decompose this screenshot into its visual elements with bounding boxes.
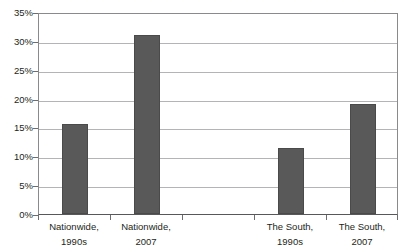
y-axis: 0%5%10%15%20%25%30%35% (0, 13, 33, 215)
gridline (39, 158, 397, 159)
y-tick-label: 0% (0, 210, 33, 220)
gridline (39, 101, 397, 102)
plot-area (38, 13, 398, 215)
x-tick-label-line2: 2007 (326, 234, 398, 249)
bar (134, 35, 160, 214)
x-tick-label-line1: The South, (267, 221, 313, 232)
y-tick-label: 20% (0, 95, 33, 105)
y-tick-label: 5% (0, 181, 33, 191)
x-tick-label-line1: The South, (339, 221, 385, 232)
gridline (39, 187, 397, 188)
x-tick-label: The South,2007 (326, 219, 398, 249)
x-tick-label: Nationwide,1990s (38, 219, 110, 249)
x-tick-label-line2: 1990s (38, 234, 110, 249)
x-tick-label-line1: Nationwide, (121, 221, 171, 232)
bar (62, 124, 88, 214)
gridline (39, 129, 397, 130)
x-tick-label: The South,1990s (254, 219, 326, 249)
chart-title (0, 0, 408, 2)
gridline (39, 72, 397, 73)
y-tick-label: 35% (0, 8, 33, 18)
y-tick-label: 30% (0, 37, 33, 47)
y-tick-label: 25% (0, 66, 33, 76)
x-axis: Nationwide,1990sNationwide,2007The South… (38, 219, 398, 252)
y-tick-label: 10% (0, 152, 33, 162)
x-tick-label: Nationwide,2007 (110, 219, 182, 249)
x-tick-label-line2: 1990s (254, 234, 326, 249)
bar (350, 104, 376, 214)
bar (278, 148, 304, 214)
x-tick-label-line2: 2007 (110, 234, 182, 249)
bar-chart: 0%5%10%15%20%25%30%35% Nationwide,1990sN… (0, 0, 408, 252)
x-tick-label-line1: Nationwide, (49, 221, 99, 232)
gridline (39, 43, 397, 44)
y-tick-label: 15% (0, 123, 33, 133)
